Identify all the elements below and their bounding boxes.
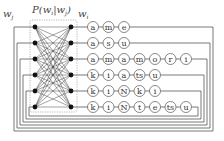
char-node: a [88, 22, 99, 33]
char-node: a [88, 54, 99, 65]
character-sequences: ameasuamamorikiatsukiNkikiNtetsu [88, 22, 192, 113]
svg-text:a: a [91, 23, 96, 32]
char-node: k [88, 102, 99, 113]
char-node: k [88, 70, 99, 81]
char-node: i [103, 86, 114, 97]
char-node: u [119, 38, 130, 49]
feedback-wire [23, 75, 204, 122]
left-word-node [33, 25, 38, 30]
left-word-node [33, 41, 38, 46]
right-word-label: wi [78, 8, 89, 20]
char-node: i [103, 70, 114, 81]
svg-text:k: k [91, 71, 96, 80]
svg-text:u: u [152, 71, 157, 80]
char-node: o [150, 54, 161, 65]
svg-text:N: N [121, 103, 128, 112]
char-node: e [119, 22, 130, 33]
char-node: a [119, 54, 130, 65]
svg-text:i: i [154, 87, 157, 96]
svg-text:i: i [185, 55, 188, 64]
svg-text:m: m [136, 55, 144, 64]
right-word-node [69, 89, 74, 94]
svg-text:m: m [105, 23, 113, 32]
char-node: r [165, 54, 176, 65]
char-node: u [150, 70, 161, 81]
char-node: ts [134, 70, 145, 81]
svg-text:k: k [137, 87, 142, 96]
right-word-node [69, 73, 74, 78]
svg-text:a: a [91, 39, 96, 48]
char-node: s [103, 38, 114, 49]
word-bigram-diagram: ameasuamamorikiatsukiNkikiNtetsu wj wi P… [0, 0, 224, 141]
svg-text:N: N [121, 87, 128, 96]
svg-text:i: i [107, 87, 110, 96]
right-word-node [69, 105, 74, 110]
char-node: i [103, 102, 114, 113]
svg-text:e: e [122, 23, 127, 32]
char-node: ts [165, 102, 176, 113]
char-node: i [181, 54, 192, 65]
right-word-node [69, 57, 74, 62]
char-node: u [181, 102, 192, 113]
feedback-wire [17, 43, 210, 128]
left-word-node [33, 57, 38, 62]
char-node: k [134, 86, 145, 97]
svg-text:i: i [107, 103, 110, 112]
left-word-node [33, 73, 38, 78]
svg-text:e: e [153, 103, 158, 112]
char-node: m [103, 22, 114, 33]
char-node: k [88, 86, 99, 97]
char-node: a [88, 38, 99, 49]
char-node: N [119, 102, 130, 113]
svg-text:a: a [91, 55, 96, 64]
char-node: a [119, 70, 130, 81]
svg-text:s: s [106, 39, 110, 48]
right-word-node [69, 41, 74, 46]
svg-text:u: u [121, 39, 126, 48]
svg-text:ts: ts [136, 71, 143, 80]
char-node: e [150, 102, 161, 113]
char-node: t [134, 102, 145, 113]
char-node: i [150, 86, 161, 97]
probability-label: P(wi|wj) [31, 4, 71, 17]
svg-text:k: k [91, 103, 96, 112]
svg-text:r: r [169, 55, 173, 64]
svg-text:o: o [153, 55, 158, 64]
svg-text:m: m [105, 55, 113, 64]
left-word-node [33, 105, 38, 110]
svg-text:a: a [122, 55, 127, 64]
svg-text:k: k [91, 87, 96, 96]
svg-text:i: i [107, 71, 110, 80]
left-word-label: wj [3, 8, 14, 21]
svg-text:u: u [183, 103, 188, 112]
left-word-node [33, 89, 38, 94]
bigram-edges [35, 27, 71, 107]
char-node: m [134, 54, 145, 65]
char-node: m [103, 54, 114, 65]
svg-text:a: a [122, 71, 127, 80]
char-node: N [119, 86, 130, 97]
svg-text:ts: ts [167, 103, 174, 112]
right-word-node [69, 25, 74, 30]
